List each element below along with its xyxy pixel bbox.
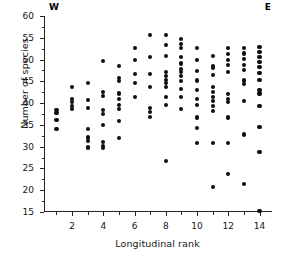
data-point [133, 95, 137, 99]
y-tick-minor-52.5 [42, 49, 45, 50]
x-tick-8: 8 [166, 212, 167, 216]
y-tick-45: 45 [40, 81, 44, 82]
data-point [257, 55, 261, 59]
data-point [117, 136, 121, 140]
data-point [148, 72, 152, 76]
data-point [117, 91, 121, 95]
data-point [179, 46, 183, 50]
x-tick-2: 2 [72, 212, 73, 216]
data-point [242, 51, 246, 55]
y-tick-label-30: 30 [23, 142, 34, 152]
data-point [242, 99, 246, 103]
data-point [148, 55, 152, 59]
x-tick-minor-5 [119, 212, 120, 215]
y-tick-label-45: 45 [23, 76, 34, 86]
data-point [117, 119, 121, 123]
data-point [257, 125, 261, 129]
data-point [148, 33, 152, 37]
y-axis-line [44, 16, 45, 212]
data-point [133, 81, 137, 85]
data-point [242, 46, 246, 50]
x-tick-minor-11 [213, 212, 214, 215]
y-tick-label-60: 60 [23, 11, 34, 21]
scatter-plot-figure: Number of species W E 152025303540455055… [0, 0, 284, 259]
data-point [226, 70, 230, 74]
y-tick-label-55: 55 [23, 33, 34, 43]
y-tick-20: 20 [40, 190, 44, 191]
y-tick-label-50: 50 [23, 55, 34, 65]
data-point [86, 106, 90, 110]
x-tick-6: 6 [135, 212, 136, 216]
data-point [242, 57, 246, 61]
data-point [195, 88, 199, 92]
x-tick-minor-3 [88, 212, 89, 215]
data-point [257, 104, 261, 108]
data-point [179, 37, 183, 41]
data-point [195, 97, 199, 101]
data-point [133, 58, 137, 62]
data-point [133, 72, 137, 76]
data-point [164, 85, 168, 89]
data-point [257, 71, 261, 75]
y-tick-40: 40 [40, 103, 44, 104]
data-point [195, 103, 199, 107]
data-point [117, 97, 121, 101]
data-point [226, 100, 230, 104]
data-point [211, 141, 215, 145]
data-point [195, 78, 199, 82]
data-point [211, 90, 215, 94]
compass-west-label: W [49, 2, 59, 12]
data-point [117, 64, 121, 68]
y-tick-label-20: 20 [23, 185, 34, 195]
y-tick-label-35: 35 [23, 120, 34, 130]
data-point [211, 85, 215, 89]
y-tick-50: 50 [40, 60, 44, 61]
data-point [226, 46, 230, 50]
y-tick-55: 55 [40, 38, 44, 39]
x-axis-line [44, 211, 272, 212]
data-point [195, 141, 199, 145]
data-point [101, 94, 105, 98]
y-tick-label-25: 25 [23, 163, 34, 173]
plot-area: W E 15202530354045505560 2468101214 [44, 16, 272, 212]
y-tick-minor-37.5 [42, 114, 45, 115]
x-tick-4: 4 [103, 212, 104, 216]
data-point [148, 85, 152, 89]
y-tick-minor-32.5 [42, 136, 45, 137]
data-point [179, 61, 183, 65]
data-point [164, 103, 168, 107]
data-point [195, 115, 199, 119]
data-point [117, 107, 121, 111]
data-point [164, 54, 168, 58]
x-tick-label-6: 6 [132, 221, 138, 231]
x-tick-label-10: 10 [191, 221, 202, 231]
y-tick-minor-22.5 [42, 179, 45, 180]
data-point [70, 85, 74, 89]
data-point [117, 79, 121, 83]
data-point [54, 111, 58, 115]
data-point [179, 55, 183, 59]
x-tick-minor-9 [181, 212, 182, 215]
compass-east-label: E [265, 2, 271, 12]
data-point [257, 209, 261, 213]
x-tick-minor-13 [244, 212, 245, 215]
data-point [226, 141, 230, 145]
data-point [164, 43, 168, 47]
x-tick-label-2: 2 [69, 221, 75, 231]
data-point [164, 33, 168, 37]
data-point [211, 73, 215, 77]
data-point [195, 46, 199, 50]
y-tick-35: 35 [40, 125, 44, 126]
x-tick-minor-7 [150, 212, 151, 215]
data-point [179, 95, 183, 99]
data-point [101, 146, 105, 150]
data-point [211, 104, 215, 108]
data-point [226, 172, 230, 176]
data-point [179, 79, 183, 83]
x-tick-10: 10 [197, 212, 198, 216]
data-point [226, 63, 230, 67]
y-tick-minor-57.5 [42, 27, 45, 28]
y-tick-60: 60 [40, 16, 44, 17]
data-point [86, 145, 90, 149]
y-tick-minor-17.5 [42, 201, 45, 202]
